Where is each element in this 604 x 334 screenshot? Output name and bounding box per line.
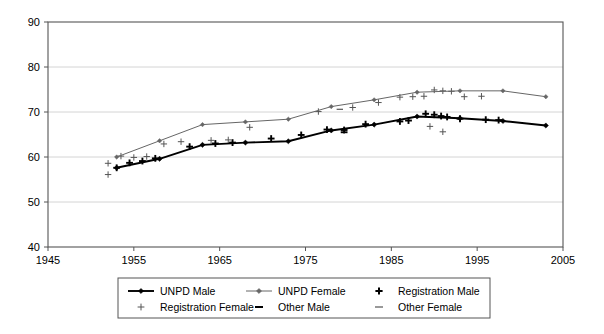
marker-diamond (329, 104, 333, 108)
life-expectancy-line-chart: 4050607080901945195519651975198519952005… (0, 0, 604, 334)
y-tick-label-40: 40 (28, 241, 40, 253)
marker-plus (461, 94, 467, 100)
series-line (117, 91, 546, 157)
marker-plus (105, 160, 111, 166)
marker-diamond (372, 122, 377, 127)
y-tick-label-70: 70 (28, 106, 40, 118)
x-tick-label-1985: 1985 (379, 254, 403, 266)
marker-plus (421, 93, 427, 99)
marker-plus (247, 124, 253, 130)
marker-plus (478, 93, 484, 99)
legend-label: UNPD Female (278, 285, 346, 297)
chart-container: 4050607080901945195519651975198519952005… (0, 0, 604, 334)
marker-plus (350, 104, 356, 110)
marker-diamond (243, 140, 248, 145)
marker-diamond (157, 139, 161, 143)
y-axis: 405060708090 (28, 16, 48, 253)
y-tick-label-80: 80 (28, 61, 40, 73)
marker-plus (131, 154, 137, 160)
series-unpd-female (114, 89, 548, 160)
y-tick-label-60: 60 (28, 151, 40, 163)
marker-plus (410, 94, 416, 100)
x-axis: 1945195519651975198519952005 (36, 247, 575, 266)
marker-diamond (200, 142, 205, 147)
legend-label: UNPD Male (160, 285, 216, 297)
marker-plus (105, 171, 111, 177)
marker-plus (427, 123, 433, 129)
x-tick-label-1965: 1965 (207, 254, 231, 266)
series-registration-female (105, 87, 485, 178)
y-tick-label-50: 50 (28, 196, 40, 208)
legend-label: Registration Female (160, 301, 254, 313)
marker-diamond (414, 114, 419, 119)
series-registration-male (113, 110, 502, 171)
x-tick-label-1955: 1955 (122, 254, 146, 266)
legend-label: Other Male (278, 301, 330, 313)
marker-plus (178, 139, 184, 145)
plot-frame (48, 22, 563, 247)
marker-diamond (372, 98, 376, 102)
legend-label: Other Female (398, 301, 462, 313)
x-tick-label-2005: 2005 (551, 254, 575, 266)
marker-plus (161, 141, 167, 147)
marker-plus (440, 129, 446, 135)
marker-diamond (286, 139, 291, 144)
marker-diamond (543, 123, 548, 128)
legend-label: Registration Male (398, 285, 480, 297)
series-layer (105, 87, 549, 178)
marker-diamond (501, 89, 505, 93)
y-tick-label-90: 90 (28, 16, 40, 28)
marker-diamond (200, 122, 204, 126)
x-tick-label-1945: 1945 (36, 254, 60, 266)
marker-diamond (286, 117, 290, 121)
marker-diamond (243, 120, 247, 124)
x-tick-label-1975: 1975 (293, 254, 317, 266)
marker-diamond (544, 95, 548, 99)
x-tick-label-1995: 1995 (465, 254, 489, 266)
marker-plus (144, 153, 150, 159)
marker-diamond (114, 165, 119, 170)
marker-diamond (114, 155, 118, 159)
marker-diamond (415, 90, 419, 94)
marker-diamond (457, 116, 462, 121)
chart-legend: UNPD MaleUNPD FemaleRegistration MaleReg… (118, 278, 490, 318)
gridlines (48, 67, 563, 202)
marker-diamond (458, 89, 462, 93)
